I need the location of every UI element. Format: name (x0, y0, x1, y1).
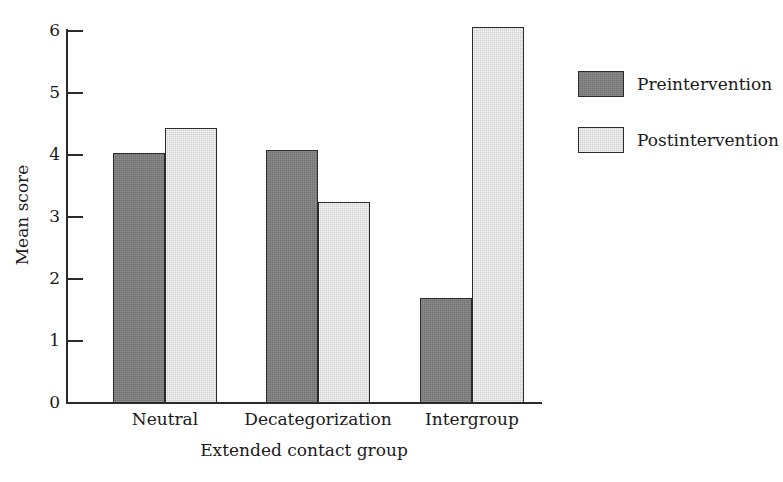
bars-layer (66, 31, 542, 403)
bar-intergroup-postintervention (472, 27, 524, 403)
y-tick-label-2: 2 (30, 270, 60, 287)
y-tick-label-text: 3 (34, 208, 60, 225)
y-tick-label-text: 0 (34, 394, 60, 411)
y-tick-label-1: 1 (30, 332, 60, 349)
legend-entry-postintervention: Postintervention (578, 126, 778, 153)
legend-swatch-postintervention (578, 127, 624, 153)
bar-neutral-preintervention (113, 153, 165, 403)
legend-label-postintervention: Postintervention (637, 131, 779, 149)
chart-legend: Preintervention Postintervention (578, 70, 778, 182)
y-axis-title: Mean score (12, 155, 32, 275)
x-axis-title: Extended contact group (66, 440, 542, 460)
y-tick-label-text: 2 (34, 270, 60, 287)
x-axis-label-intergroup: Intergroup (372, 409, 572, 429)
y-tick-label-text: 4 (34, 146, 60, 163)
bar-chart-figure: Mean score 0123456 NeutralDecategorizati… (0, 0, 783, 482)
legend-entry-preintervention: Preintervention (578, 70, 778, 97)
legend-swatch-preintervention (578, 71, 624, 97)
legend-label-preintervention: Preintervention (637, 75, 772, 93)
y-tick-label-4: 4 (30, 146, 60, 163)
bar-decategorization-preintervention (266, 150, 318, 403)
bar-neutral-postintervention (165, 128, 217, 403)
y-tick-label-6: 6 (30, 22, 60, 39)
y-tick-label-text: 6 (34, 22, 60, 39)
y-tick-label-text: 5 (34, 84, 60, 101)
bar-decategorization-postintervention (318, 202, 370, 403)
y-tick-label-text: 1 (34, 332, 60, 349)
y-tick-label-3: 3 (30, 208, 60, 225)
bar-intergroup-preintervention (420, 298, 472, 403)
y-tick-label-0: 0 (30, 394, 60, 411)
y-tick-label-5: 5 (30, 84, 60, 101)
